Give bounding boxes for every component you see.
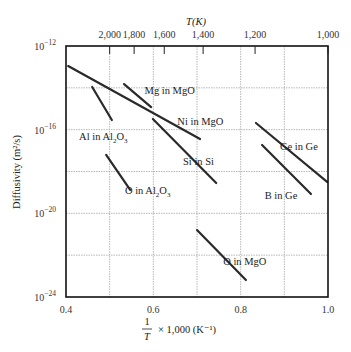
series-line <box>68 66 200 139</box>
y-axis-ticks: 10−1210−1610−2010−24 <box>34 38 56 303</box>
series-line <box>153 119 216 183</box>
top-axis-title: T(K) <box>186 16 206 28</box>
data-series <box>68 66 327 280</box>
x-axis-title: 1 T × 1,000 (K⁻¹) <box>142 316 217 342</box>
diffusivity-chart: Ni in MgOMg in MgOAl in Al2O3Si in SiO i… <box>0 0 351 352</box>
series-label: Al in Al2O3 <box>79 131 128 145</box>
y-tick-label: 10−12 <box>34 38 56 52</box>
series-label: O in Al2O3 <box>125 185 171 199</box>
top-tick-label: 1,400 <box>192 29 215 40</box>
x-tick-label: 1.0 <box>322 304 335 315</box>
series-label: Ni in MgO <box>177 116 224 127</box>
x-tick-label: 0.8 <box>234 304 247 315</box>
y-tick-label: 10−20 <box>34 205 56 219</box>
top-tick-label: 1,600 <box>153 29 176 40</box>
top-tick-label: 1,200 <box>244 29 267 40</box>
x-tick-label: 0.6 <box>147 304 160 315</box>
series-label: Ge in Ge <box>280 141 318 152</box>
x-axis-suffix: × 1,000 (K⁻¹) <box>158 324 217 336</box>
y-tick-label: 10−16 <box>34 122 56 136</box>
series-labels: Ni in MgOMg in MgOAl in Al2O3Si in SiO i… <box>79 85 318 268</box>
x-axis-fraction-denominator: T <box>144 331 151 342</box>
series-label: O in MgO <box>223 256 267 267</box>
top-tick-label: 1,800 <box>123 29 146 40</box>
y-axis-title: Diffusivity (m²/s) <box>11 135 23 209</box>
top-tick-label: 2,000 <box>98 29 121 40</box>
series-label: Mg in MgO <box>145 85 196 96</box>
series-line <box>92 87 112 120</box>
series-label: B in Ge <box>265 190 298 201</box>
top-tick-label: 1,000 <box>317 29 340 40</box>
series-label: Si in Si <box>183 156 214 167</box>
x-axis-ticks: 0.40.60.81.0 <box>60 304 335 315</box>
y-tick-label: 10−24 <box>34 289 56 303</box>
x-axis-fraction-numerator: 1 <box>144 316 149 327</box>
x-tick-label: 0.4 <box>60 304 73 315</box>
top-axis-ticks: 2,0001,8001,6001,4001,2001,000 <box>98 29 339 54</box>
